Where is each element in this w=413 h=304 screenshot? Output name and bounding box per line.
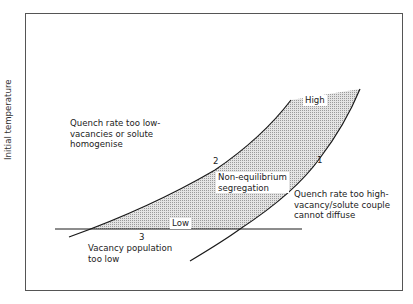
diagram-canvas [0, 0, 413, 304]
band-label-high: High [303, 95, 327, 106]
region-label-center: Non-equilibrium segregation [216, 172, 289, 193]
line-3-label: 3 [139, 232, 144, 243]
curve-2-label: 2 [213, 156, 218, 167]
region-label-upper-left: Quench rate too low- vacancies or solute… [70, 118, 160, 150]
band-label-low: Low [170, 218, 191, 229]
region-label-right: Quench rate too high- vacancy/solute cou… [294, 189, 390, 221]
curve-1-label: 1 [317, 155, 322, 166]
region-label-bottom: Vacancy population too low [88, 243, 172, 264]
y-axis-label: Initial temperature [3, 79, 13, 160]
